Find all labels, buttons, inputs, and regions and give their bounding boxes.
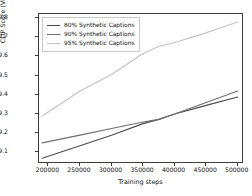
y-tick-mark [35, 113, 38, 114]
plot-area: 80% Synthetic Captions 90% Synthetic Cap… [38, 13, 243, 163]
x-tick-mark [174, 163, 175, 166]
x-tick-mark [237, 163, 238, 166]
y-tick-label: 29.7 [0, 32, 8, 39]
x-tick-mark [205, 163, 206, 166]
chart-figure: 80% Synthetic Captions 90% Synthetic Cap… [0, 0, 252, 196]
y-tick-mark [35, 94, 38, 95]
y-tick-mark [35, 55, 38, 56]
y-tick-mark [35, 36, 38, 37]
y-tick-mark [35, 132, 38, 133]
x-tick-mark [79, 163, 80, 166]
y-tick-label: 29.4 [0, 90, 8, 97]
y-axis-label: CLIP Score (ViT-B) [0, 0, 6, 52]
legend-item-80: 80% Synthetic Captions [47, 21, 134, 30]
legend-item-95: 95% Synthetic Captions [47, 39, 134, 48]
series-line-1 [42, 91, 238, 143]
x-tick-mark [47, 163, 48, 166]
legend-label-80: 80% Synthetic Captions [64, 21, 134, 30]
y-tick-mark [35, 17, 38, 18]
y-tick-label: 29.1 [0, 147, 8, 154]
y-tick-label: 29.8 [0, 13, 8, 20]
x-tick-label: 500000 [214, 166, 252, 173]
y-tick-mark [35, 151, 38, 152]
x-axis-label: Training steps [38, 178, 243, 186]
x-tick-mark [142, 163, 143, 166]
y-tick-label: 29.5 [0, 71, 8, 78]
y-tick-label: 29.3 [0, 109, 8, 116]
legend-label-90: 90% Synthetic Captions [64, 30, 134, 39]
legend-swatch-80 [47, 25, 60, 26]
legend-swatch-90 [47, 34, 60, 35]
y-tick-label: 29.6 [0, 51, 8, 58]
y-tick-label: 29.2 [0, 128, 8, 135]
legend-label-95: 95% Synthetic Captions [64, 39, 134, 48]
legend-swatch-95 [47, 43, 60, 44]
chart-legend: 80% Synthetic Captions 90% Synthetic Cap… [42, 17, 140, 52]
x-tick-mark [111, 163, 112, 166]
legend-item-90: 90% Synthetic Captions [47, 30, 134, 39]
y-tick-mark [35, 75, 38, 76]
series-line-0 [42, 97, 238, 158]
